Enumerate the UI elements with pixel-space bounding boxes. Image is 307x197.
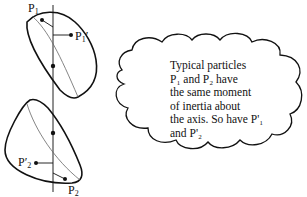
diagram-canvas: P1 P1′ P′2 P2 Typical particles P₁ and P…	[0, 0, 307, 197]
p2-radius	[53, 173, 65, 179]
upper-inner-edge	[32, 16, 78, 97]
label-p1: P1	[28, 2, 39, 18]
cloud-caption: Typical particles P₁ and P₂ have the sam…	[170, 59, 300, 140]
cloud-line: P₁ and P₂ have	[170, 73, 300, 87]
center-point-upper	[51, 64, 55, 68]
label-p2: P2	[68, 184, 79, 197]
cloud-line: the same moment	[170, 86, 300, 100]
cloud-line: Typical particles	[170, 59, 300, 73]
label-p2-prime: P′2	[18, 156, 31, 172]
center-point-lower	[51, 131, 55, 135]
particle-p2	[63, 177, 67, 181]
cloud-line: the axis. So have P'₁	[170, 113, 300, 127]
upper-hemisphere	[27, 12, 97, 98]
particle-p1-prime	[69, 33, 73, 37]
label-p1-prime: P1′	[75, 30, 88, 46]
lower-hemisphere	[5, 99, 82, 183]
p1-radius	[42, 20, 53, 27]
cloud-line: of inertia about	[170, 100, 300, 114]
cloud-line: and P'₂	[170, 127, 300, 141]
